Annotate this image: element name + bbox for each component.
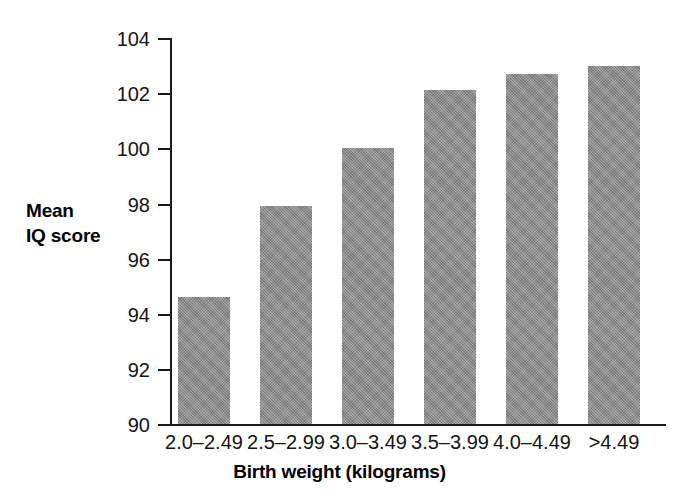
y-tick-label-90: 90 (92, 415, 150, 435)
y-tick-label-104: 104 (92, 29, 150, 49)
y-tick-94 (158, 314, 170, 316)
y-tick-92 (158, 369, 170, 371)
y-tick-104 (158, 38, 170, 40)
y-axis-title-line-1: Mean (26, 198, 100, 223)
y-axis-line (170, 38, 172, 425)
y-tick-label-96: 96 (92, 250, 150, 270)
bar-2 (342, 148, 394, 424)
y-tick-label-98: 98 (92, 195, 150, 215)
x-axis-origin-tick (170, 414, 172, 425)
x-tick-label-5: >4.49 (559, 430, 669, 454)
bar-chart: Mean IQ score 90 92 94 96 98 100 102 104… (0, 0, 679, 493)
y-tick-100 (158, 148, 170, 150)
bar-5 (588, 66, 640, 424)
y-tick-label-94: 94 (92, 305, 150, 325)
y-tick-label-92: 92 (92, 360, 150, 380)
y-axis-title-line-2: IQ score (26, 223, 100, 248)
y-axis-title: Mean IQ score (26, 198, 100, 248)
bar-0 (178, 297, 230, 424)
y-tick-102 (158, 93, 170, 95)
y-tick-label-102: 102 (92, 84, 150, 104)
bar-4 (506, 74, 558, 424)
y-tick-96 (158, 259, 170, 261)
y-tick-98 (158, 204, 170, 206)
bar-1 (260, 206, 312, 424)
y-tick-90 (158, 424, 170, 426)
x-axis-line (170, 424, 666, 426)
y-tick-label-100: 100 (92, 139, 150, 159)
bar-3 (424, 90, 476, 424)
x-axis-title: Birth weight (kilograms) (0, 461, 679, 483)
